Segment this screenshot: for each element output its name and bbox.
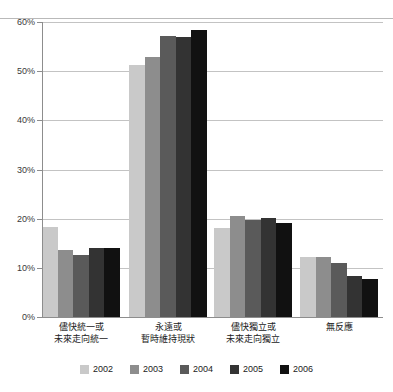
bar-chart-figure: 0%10%20%30%40%50%60% 儘快統一或未來走向統一永遠或暫時維持現…: [0, 0, 393, 392]
bar-2003-group-3: [230, 216, 246, 317]
bar-2002-group-3: [214, 228, 230, 317]
legend-swatch-2005: [230, 365, 239, 374]
x-axis-line: [42, 317, 383, 318]
legend-label-2004: 2004: [193, 365, 213, 374]
bar-group-4: [300, 22, 378, 317]
category-label-line2: 未來走向獨立: [200, 334, 306, 346]
category-label-line1: 儘快獨立或: [231, 322, 276, 332]
y-tick-label-60%: 60%: [3, 18, 35, 27]
bar-2003-group-4: [316, 257, 332, 317]
plot-area: [42, 22, 383, 317]
bar-2004-group-4: [331, 263, 347, 317]
bar-2002-group-4: [300, 257, 316, 317]
bar-2004-group-2: [160, 36, 176, 317]
y-tick-label-40%: 40%: [3, 116, 35, 125]
bar-2004-group-3: [245, 220, 261, 317]
legend-label-2003: 2003: [143, 365, 163, 374]
bar-2005-group-4: [347, 276, 363, 317]
bar-2004-group-1: [73, 255, 89, 317]
category-label-line1: 儘快統一或: [59, 322, 104, 332]
bar-group-3: [214, 22, 292, 317]
bar-group-2: [129, 22, 207, 317]
category-label-line1: 永遠或: [155, 322, 182, 332]
bar-2006-group-1: [104, 248, 120, 317]
bar-2006-group-3: [276, 223, 292, 317]
top-divider-rule: [0, 18, 393, 19]
legend-label-2002: 2002: [93, 365, 113, 374]
y-tick-label-20%: 20%: [3, 215, 35, 224]
legend-item-2006[interactable]: 2006: [280, 365, 313, 374]
legend-item-2005[interactable]: 2005: [230, 365, 263, 374]
bar-2003-group-2: [145, 57, 161, 317]
bar-2003-group-1: [58, 250, 74, 317]
legend-swatch-2004: [180, 365, 189, 374]
bar-2006-group-2: [191, 30, 207, 317]
legend-swatch-2002: [80, 365, 89, 374]
category-label-4: 無反應: [286, 322, 392, 334]
bar-2005-group-2: [176, 37, 192, 317]
y-axis-line: [42, 22, 43, 318]
y-tick-label-10%: 10%: [3, 264, 35, 273]
bar-2002-group-1: [42, 227, 58, 317]
legend-label-2006: 2006: [293, 365, 313, 374]
legend-item-2003[interactable]: 2003: [130, 365, 163, 374]
y-tick-label-30%: 30%: [3, 166, 35, 175]
bar-2005-group-3: [261, 218, 277, 317]
legend-swatch-2006: [280, 365, 289, 374]
bar-2005-group-1: [89, 248, 105, 317]
legend-item-2002[interactable]: 2002: [80, 365, 113, 374]
bar-group-1: [42, 22, 120, 317]
y-tick-label-50%: 50%: [3, 67, 35, 76]
bar-2002-group-2: [129, 65, 145, 317]
legend-swatch-2003: [130, 365, 139, 374]
legend-label-2005: 2005: [243, 365, 263, 374]
chart-legend: 20022003200420052006: [0, 365, 393, 374]
category-label-line1: 無反應: [326, 322, 353, 332]
y-tick-label-0%: 0%: [3, 313, 35, 322]
bar-2006-group-4: [362, 279, 378, 317]
legend-item-2004[interactable]: 2004: [180, 365, 213, 374]
